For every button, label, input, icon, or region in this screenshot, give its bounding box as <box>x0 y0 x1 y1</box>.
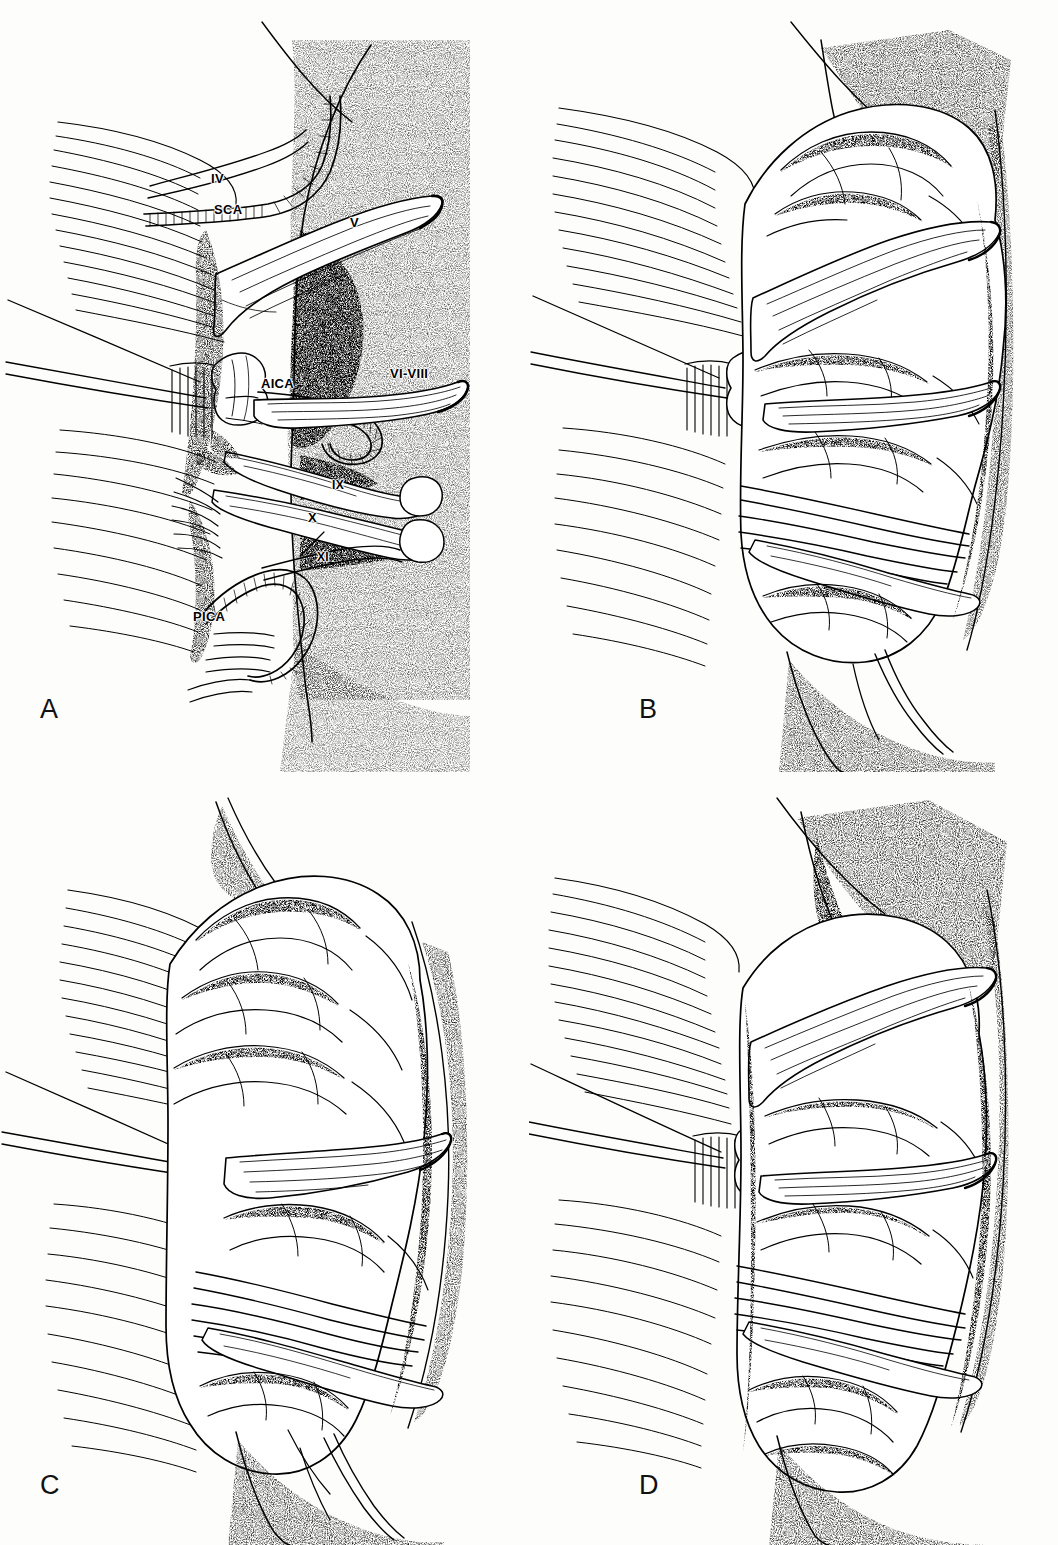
label-posterior-inferior-cerebellar-artery: PICA <box>193 610 225 623</box>
label-abducens-to-vestibulocochlear-nerves: VI-VIII <box>390 367 428 380</box>
label-glossopharyngeal-nerve: IX <box>332 479 344 491</box>
panel-letter-a: A <box>40 696 59 723</box>
panel-letter-b: B <box>639 696 658 723</box>
panel-b-artwork <box>529 0 1058 772</box>
panel-d-artwork <box>529 772 1058 1545</box>
label-trochlear-nerve: IV <box>211 172 224 185</box>
panel-letter-c: C <box>40 1472 60 1499</box>
panel-letter-d: D <box>639 1472 659 1499</box>
label-superior-cerebellar-artery: SCA <box>214 203 242 216</box>
label-trigeminal-nerve: V <box>350 216 359 229</box>
panel-c-artwork <box>0 772 529 1545</box>
label-accessory-nerve: XI <box>317 551 329 563</box>
panel-b: B <box>529 0 1058 772</box>
figure-container: A IV SCA V AICA VI-VIII IX X XI PICA <box>0 0 1058 1545</box>
panel-d: D <box>529 772 1058 1545</box>
label-vagus-nerve: X <box>308 511 317 524</box>
panel-a: A IV SCA V AICA VI-VIII IX X XI PICA <box>0 0 529 772</box>
panel-c: C <box>0 772 529 1545</box>
label-anterior-inferior-cerebellar-artery: AICA <box>261 377 294 390</box>
